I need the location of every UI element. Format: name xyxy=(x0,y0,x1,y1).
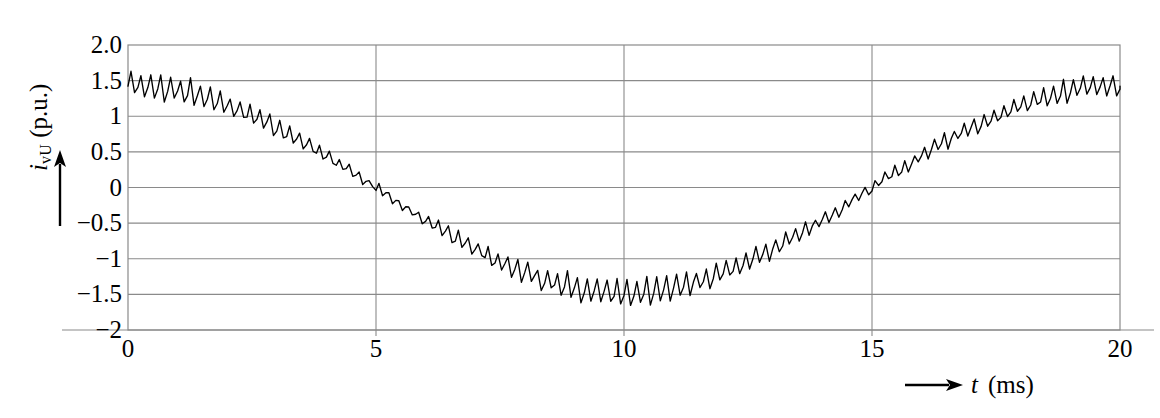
x-tick-label: 10 xyxy=(589,336,659,361)
x-tick-label: 0 xyxy=(93,336,163,361)
x-tick-label: 15 xyxy=(837,336,907,361)
chart-figure: ivU (p.u.) 2.01.510.50−0.5−1−1.5−2 05101… xyxy=(0,0,1160,418)
x-tick-label: 20 xyxy=(1085,336,1155,361)
x-tick-label: 5 xyxy=(341,336,411,361)
x-axis-label: t(ms) xyxy=(971,371,1034,399)
x-axis-symbol: t xyxy=(971,371,978,398)
x-axis-tick-labels: 05101520 xyxy=(0,0,1160,418)
x-axis-arrow-icon xyxy=(905,378,963,392)
x-axis-unit: (ms) xyxy=(988,371,1034,398)
x-axis-label-group: t(ms) xyxy=(905,368,1034,402)
